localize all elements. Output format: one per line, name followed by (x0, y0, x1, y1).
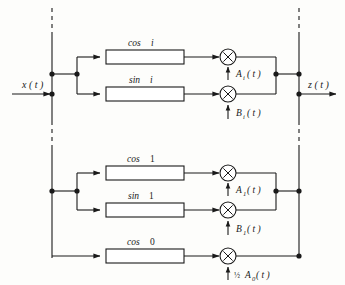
coeff-label-B-i: B i ( t ) (236, 108, 261, 120)
svg-text:B: B (236, 108, 242, 118)
output-label: z ( t ) (307, 79, 330, 91)
svg-text:cos: cos (127, 237, 140, 247)
svg-text:cos: cos (127, 154, 140, 164)
svg-text:A: A (235, 69, 242, 79)
filter-box-cos-i (106, 50, 184, 64)
coeff-label-A-0: ½ A 0 ( t ) (234, 270, 270, 282)
svg-text:1: 1 (243, 190, 246, 197)
filter-box-cos-1 (106, 166, 184, 180)
coeff-label-B-1: B 1 ( t ) (236, 224, 261, 236)
node-lower-sum (273, 188, 278, 193)
node-left-upper-tap (49, 71, 54, 76)
block-diagram: x ( t ) z ( t ) cos i A i ( t ) sin i B … (0, 0, 345, 285)
svg-text:( t ): ( t ) (247, 185, 261, 196)
svg-text:1: 1 (243, 229, 246, 236)
svg-text:( t ): ( t ) (247, 224, 261, 235)
filter-label-cos-0: cos 0 (127, 237, 155, 247)
svg-text:( t ): ( t ) (247, 108, 261, 119)
svg-text:A: A (244, 270, 251, 280)
svg-text:sin: sin (129, 75, 140, 85)
svg-text:1: 1 (149, 191, 154, 201)
svg-text:sin: sin (128, 191, 139, 201)
svg-text:A: A (235, 185, 242, 195)
svg-text:( t ): ( t ) (247, 69, 261, 80)
node-right-upper-tap (296, 71, 301, 76)
node-left-input (49, 91, 54, 96)
filter-label-sin-i: sin i (129, 75, 153, 85)
node-lower-splitter (74, 188, 79, 193)
diagram-canvas: x ( t ) z ( t ) cos i A i ( t ) sin i B … (0, 0, 345, 285)
node-left-lower-tap (49, 188, 54, 193)
filter-box-cos-0 (106, 249, 184, 263)
node-right-output (296, 91, 301, 96)
filter-box-sin-1 (106, 203, 184, 217)
node-upper-sum (273, 71, 278, 76)
svg-text:( t ): ( t ) (256, 270, 270, 281)
svg-text:B: B (236, 224, 242, 234)
svg-text:cos: cos (128, 38, 141, 48)
filter-label-cos-i: cos i (128, 38, 154, 48)
node-right-dc-tap (296, 253, 301, 258)
input-label: x ( t ) (21, 79, 44, 91)
svg-text:0: 0 (150, 237, 155, 247)
coeff-label-A-i: A i ( t ) (235, 69, 261, 81)
svg-text:i: i (151, 38, 154, 48)
svg-text:i: i (150, 75, 153, 85)
svg-text:i: i (243, 74, 245, 81)
svg-text:i: i (243, 113, 245, 120)
filter-label-cos-1: cos 1 (127, 154, 155, 164)
svg-text:1: 1 (150, 154, 155, 164)
filter-box-sin-i (106, 87, 184, 101)
coeff-label-A-1: A 1 ( t ) (235, 185, 261, 197)
filter-label-sin-1: sin 1 (128, 191, 154, 201)
node-upper-splitter (74, 71, 79, 76)
svg-text:½: ½ (234, 271, 240, 280)
node-right-lower-tap (296, 188, 301, 193)
